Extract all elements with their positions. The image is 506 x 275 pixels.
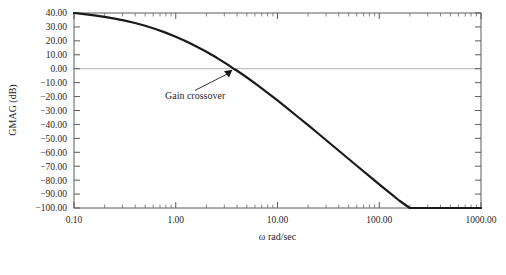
chart-canvas: 0.101.0010.00100.001000.00 40.0030.0020.… (0, 0, 506, 275)
y-tick-label: −20.00 (40, 92, 67, 102)
y-tick-label: 10.00 (46, 50, 68, 60)
x-tick-label: 1000.00 (466, 215, 497, 225)
y-tick-label: −40.00 (40, 120, 67, 130)
y-axis-title: GMAG (dB) (7, 84, 19, 135)
y-tick-label: 20.00 (46, 36, 68, 46)
y-tick-label: −100.00 (36, 203, 68, 213)
y-tick-label: −10.00 (40, 78, 67, 88)
y-tick-label: 30.00 (46, 22, 68, 32)
x-axis-tick-labels: 0.101.0010.00100.001000.00 (66, 215, 497, 225)
y-tick-label: 40.00 (46, 8, 68, 18)
y-tick-label: −90.00 (40, 189, 67, 199)
x-tick-label: 1.00 (167, 215, 184, 225)
y-axis-tick-labels: 40.0030.0020.0010.000.00−10.00−20.00−30.… (36, 8, 68, 213)
x-tick-label: 10.00 (267, 215, 289, 225)
bode-magnitude-figure: 0.101.0010.00100.001000.00 40.0030.0020.… (0, 0, 506, 275)
y-tick-label: −80.00 (40, 176, 67, 186)
y-tick-label: −30.00 (40, 106, 67, 116)
x-axis-title: ω rad/sec (259, 231, 297, 242)
y-tick-label: −50.00 (40, 134, 67, 144)
gain-crossover-label: Gain crossover (165, 90, 226, 101)
y-tick-label: 0.00 (50, 64, 67, 74)
plot-area-background (74, 13, 481, 208)
x-tick-label: 100.00 (366, 215, 392, 225)
y-tick-label: −70.00 (40, 162, 67, 172)
y-tick-label: −60.00 (40, 148, 67, 158)
x-tick-label: 0.10 (66, 215, 83, 225)
